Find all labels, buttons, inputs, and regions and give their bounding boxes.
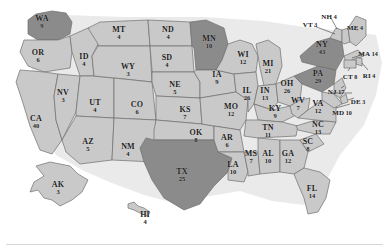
state-shape-MT[interactable] xyxy=(88,20,150,46)
state-shape-OR[interactable] xyxy=(20,36,72,72)
state-shape-AL[interactable] xyxy=(258,138,280,174)
leader-line-NH xyxy=(331,18,337,29)
state-shape-WY[interactable] xyxy=(92,46,152,82)
state-shape-SD[interactable] xyxy=(150,46,194,72)
state-shape-CO[interactable] xyxy=(114,78,156,120)
state-shape-ND[interactable] xyxy=(148,20,192,46)
state-shape-AR[interactable] xyxy=(214,126,244,152)
state-shape-AK[interactable] xyxy=(30,162,88,206)
state-shape-WA[interactable] xyxy=(28,11,72,40)
state-shape-CT[interactable] xyxy=(344,60,356,68)
electoral-map: WA9OR6CA40NV3ID4UT4AZ5MT4WY3CO6NM4ND4SD4… xyxy=(0,0,389,248)
state-shape-NE[interactable] xyxy=(152,72,200,98)
us-map-svg xyxy=(0,0,389,248)
state-shape-MO[interactable] xyxy=(200,92,248,130)
state-shape-UT[interactable] xyxy=(76,76,114,118)
bottom-divider xyxy=(6,244,383,245)
state-shape-KS[interactable] xyxy=(156,96,202,124)
state-shape-HI[interactable] xyxy=(128,202,150,216)
